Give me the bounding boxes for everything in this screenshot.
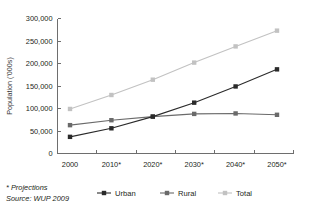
chart-legend: UrbanRuralTotal (97, 189, 252, 198)
y-axis-tick-label: 50,000 (30, 127, 53, 136)
legend-label: Rural (178, 189, 196, 198)
series-urban (68, 67, 279, 139)
series-line (70, 113, 277, 125)
y-axis-tick-label: 0 (48, 149, 52, 158)
data-point-marker (109, 93, 113, 97)
y-axis-tick-label: 300,000 (26, 14, 53, 23)
y-axis-title-text: Population ('000s) (5, 57, 14, 115)
legend-marker (102, 191, 106, 195)
x-axis-tick-label: 2050* (267, 160, 286, 169)
data-point-marker (275, 67, 279, 71)
footnote-source: Source: WUP 2009 (6, 194, 69, 203)
footnote-projections: * Projections (6, 183, 48, 192)
x-axis-tick-label: 2000 (62, 160, 78, 169)
axis-frame (58, 19, 294, 154)
x-axis-tick-label: 2030* (185, 160, 204, 169)
data-point-marker (109, 126, 113, 130)
data-point-marker (151, 78, 155, 82)
y-axis-tick-label: 250,000 (26, 37, 53, 46)
data-point-marker (275, 28, 279, 32)
data-point-marker (192, 60, 196, 64)
data-point-marker (233, 44, 237, 48)
y-axis-tick-marks (58, 19, 62, 154)
series-rural (68, 111, 279, 127)
y-axis-tick-label: 200,000 (26, 59, 53, 68)
data-point-marker (109, 118, 113, 122)
legend-marker (165, 191, 169, 195)
x-axis-tick-labels: 20002010*2020*2030*2040*2050* (62, 160, 287, 169)
legend-label: Urban (115, 189, 136, 198)
legend-label: Total (236, 189, 252, 198)
data-point-marker (192, 100, 196, 104)
x-axis-tick-label: 2020* (143, 160, 162, 169)
population-line-chart: Population ('000s) 050,000100,000150,000… (0, 0, 312, 215)
series-line (70, 31, 277, 109)
data-point-marker (275, 113, 279, 117)
x-axis-tick-label: 2010* (102, 160, 121, 169)
data-point-marker (68, 135, 72, 139)
x-axis-tick-label: 2040* (226, 160, 245, 169)
data-point-marker (192, 112, 196, 116)
data-point-marker (233, 84, 237, 88)
data-point-marker (68, 123, 72, 127)
data-point-marker (68, 107, 72, 111)
series-layer (68, 28, 279, 139)
legend-item-urban[interactable]: Urban (97, 189, 136, 198)
data-point-marker (151, 114, 155, 118)
y-axis-tick-label: 100,000 (26, 104, 53, 113)
data-point-marker (233, 111, 237, 115)
y-axis-tick-labels: 050,000100,000150,000200,000250,000300,0… (26, 14, 53, 158)
legend-item-rural[interactable]: Rural (160, 189, 196, 198)
legend-item-total[interactable]: Total (218, 189, 252, 198)
y-axis-tick-label: 150,000 (26, 82, 53, 91)
x-axis-tick-marks (58, 150, 294, 154)
chart-canvas: Population ('000s) 050,000100,000150,000… (0, 0, 312, 215)
series-line (70, 69, 277, 137)
legend-marker (223, 191, 227, 195)
y-axis-title: Population ('000s) (5, 57, 14, 115)
series-total (68, 28, 279, 111)
